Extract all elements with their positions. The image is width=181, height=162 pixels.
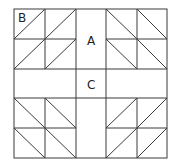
quilt-block-diagram: B A C: [0, 0, 181, 162]
label-b: B: [18, 11, 26, 25]
label-a: A: [87, 34, 96, 48]
label-c: C: [87, 78, 95, 92]
